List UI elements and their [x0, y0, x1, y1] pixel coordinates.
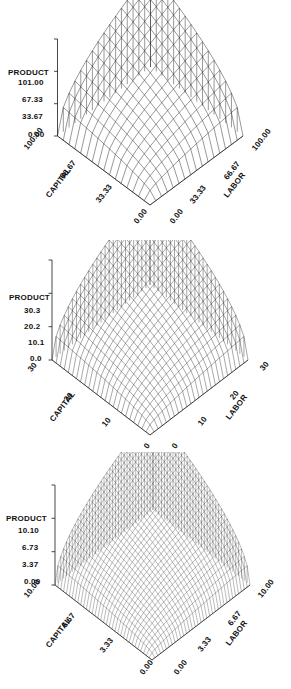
surface-curtain [58, 0, 244, 136]
z-axis-title: PRODUCT [8, 68, 49, 77]
surface-wireframe [55, 452, 250, 660]
z-axis-tick-2: 3.37 [22, 560, 38, 569]
z-axis-line [54, 39, 58, 136]
z-axis-tick-2: 10.1 [28, 338, 44, 347]
z-axis-tick-1: 20.2 [24, 322, 40, 331]
surface-plot-panel-1: PRODUCT101.0067.3333.670.00100.0066.6733… [0, 0, 291, 240]
surface-mesh [0, 452, 291, 689]
z-axis-title: PRODUCT [9, 293, 50, 302]
axis-floor-edges [55, 585, 250, 660]
z-axis-tick-0: 30.3 [24, 306, 40, 315]
surface-curtain [55, 452, 250, 585]
z-axis-tick-0: 101.00 [18, 78, 44, 87]
axis-floor-edges [52, 360, 248, 435]
surface-wireframe [58, 0, 244, 205]
z-axis-tick-2: 33.67 [22, 112, 43, 121]
z-axis-line [49, 260, 53, 360]
surface-plot-panel-2: PRODUCT30.320.210.10.03020100CAPITAL0102… [0, 240, 291, 452]
z-axis-title: PRODUCT [6, 514, 47, 523]
surface-mesh [0, 0, 291, 240]
surface-plot-panel-3: PRODUCT10.106.733.370.0010.006.673.330.0… [0, 452, 291, 689]
z-axis-tick-1: 6.73 [22, 543, 38, 552]
z-axis-line [52, 485, 56, 585]
z-axis-tick-0: 10.10 [18, 526, 39, 535]
z-axis-tick-1: 67.33 [22, 95, 43, 104]
